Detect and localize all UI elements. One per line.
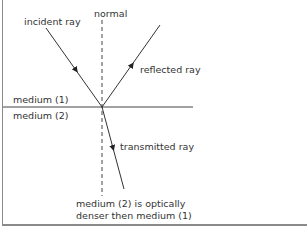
- label-incident-ray: incident ray: [24, 16, 81, 27]
- label-medium-2: medium (2): [13, 110, 69, 121]
- note-line-1: medium (2) is optically: [76, 198, 185, 209]
- label-normal: normal: [94, 8, 127, 19]
- note-line-2: denser then medium (1): [76, 210, 192, 221]
- label-transmitted-ray: transmitted ray: [120, 141, 194, 152]
- label-medium-1: medium (1): [13, 94, 69, 105]
- label-reflected-ray: reflected ray: [140, 64, 201, 75]
